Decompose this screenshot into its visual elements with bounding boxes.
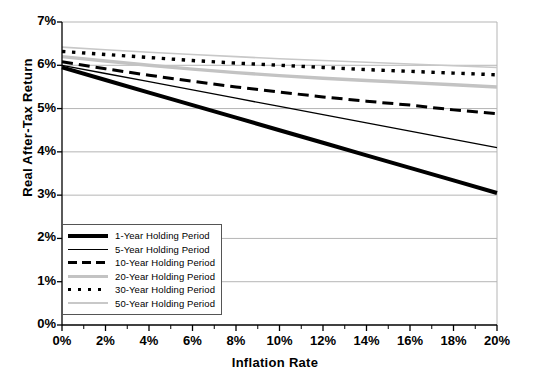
legend-swatch-30-year-icon (68, 284, 108, 296)
legend-item-50-year: 50-Year Holding Period (68, 297, 215, 311)
y-axis-tick-label: 3% (10, 186, 56, 201)
legend-label: 1-Year Holding Period (115, 230, 210, 241)
y-axis-tick-label: 0% (10, 316, 56, 331)
legend-swatch-1-year-icon (68, 230, 108, 242)
plot-area (0, 0, 550, 376)
series-line (62, 67, 497, 193)
legend-label: 10-Year Holding Period (115, 257, 215, 268)
chart-legend: 1-Year Holding Period 5-Year Holding Per… (62, 224, 222, 315)
y-axis-tick-label: 7% (10, 13, 56, 28)
y-axis-tick-label: 2% (10, 229, 56, 244)
legend-item-20-year: 20-Year Holding Period (68, 270, 215, 284)
chart-container: Real After-Tax Return Inflation Rate 0%1… (0, 0, 550, 376)
x-axis-tick-label: 20% (467, 333, 527, 348)
y-axis-tick-label: 6% (10, 56, 56, 71)
legend-label: 20-Year Holding Period (115, 271, 215, 282)
y-axis-tick-label: 1% (10, 273, 56, 288)
y-axis-tick-label: 5% (10, 100, 56, 115)
series-line (62, 65, 497, 147)
legend-swatch-5-year-icon (68, 243, 108, 255)
legend-item-1-year: 1-Year Holding Period (68, 229, 215, 243)
legend-swatch-10-year-icon (68, 257, 108, 269)
legend-swatch-20-year-icon (68, 270, 108, 282)
y-axis-tick-label: 4% (10, 143, 56, 158)
legend-item-30-year: 30-Year Holding Period (68, 283, 215, 297)
legend-item-10-year: 10-Year Holding Period (68, 256, 215, 270)
legend-swatch-50-year-icon (68, 297, 108, 309)
legend-label: 5-Year Holding Period (115, 244, 210, 255)
legend-label: 50-Year Holding Period (115, 298, 215, 309)
legend-item-5-year: 5-Year Holding Period (68, 243, 215, 257)
x-axis-title: Inflation Rate (0, 355, 550, 370)
legend-label: 30-Year Holding Period (115, 284, 215, 295)
